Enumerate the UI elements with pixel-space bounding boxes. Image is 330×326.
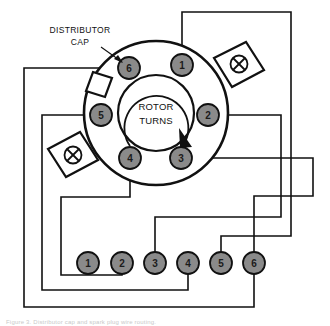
- callout-line2: CAP: [71, 37, 89, 47]
- diagram-canvas: ROTOR TURNS 1 2 3 4 5: [0, 0, 330, 326]
- terminal-5-label: 5: [98, 110, 104, 121]
- cylinder-3-label: 3: [152, 258, 158, 269]
- terminal-3-label: 3: [178, 153, 184, 164]
- wire-terminal-3-to-cylinder-6: [192, 158, 313, 252]
- terminal-3[interactable]: 3: [170, 147, 192, 169]
- terminal-1-label: 1: [179, 60, 185, 71]
- cylinder-1-label: 1: [85, 258, 91, 269]
- terminal-1[interactable]: 1: [171, 54, 193, 76]
- figure-caption: Figure 3. Distributor cap and spark plug…: [6, 319, 156, 325]
- rotor-turns-label-line1: ROTOR: [138, 101, 173, 112]
- cylinder-2-label: 2: [119, 258, 125, 269]
- cylinder-4[interactable]: 4: [177, 252, 199, 274]
- cylinder-6[interactable]: 6: [243, 252, 265, 274]
- terminal-6-label: 6: [126, 63, 132, 74]
- terminal-2-label: 2: [205, 110, 211, 121]
- terminal-2[interactable]: 2: [197, 104, 219, 126]
- cylinder-5[interactable]: 5: [210, 252, 232, 274]
- cylinder-6-label: 6: [251, 258, 257, 269]
- cylinder-3[interactable]: 3: [144, 252, 166, 274]
- terminal-4-label: 4: [127, 153, 133, 164]
- cylinder-5-label: 5: [218, 258, 224, 269]
- terminal-4[interactable]: 4: [119, 147, 141, 169]
- cylinder-row: 1 2 3 4 5 6: [77, 252, 265, 274]
- terminal-5[interactable]: 5: [90, 104, 112, 126]
- callout-line1: DISTRIBUTOR: [50, 25, 111, 35]
- distributor-firing-order-diagram: ROTOR TURNS 1 2 3 4 5: [0, 0, 330, 326]
- rotor-turns-label-line2: TURNS: [139, 115, 173, 126]
- cylinder-2[interactable]: 2: [111, 252, 133, 274]
- cylinder-1[interactable]: 1: [77, 252, 99, 274]
- cylinder-4-label: 4: [185, 258, 191, 269]
